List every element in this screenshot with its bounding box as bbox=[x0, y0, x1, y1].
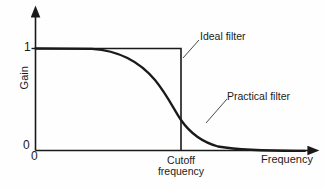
ideal-filter-annotation: Ideal filter bbox=[200, 31, 246, 42]
y-tick-label-one: 1 bbox=[24, 41, 31, 54]
y-axis-label: Gain bbox=[19, 55, 31, 101]
ideal-filter-leader-line bbox=[183, 40, 199, 58]
practical-filter-leader-line bbox=[206, 99, 227, 123]
y-tick-label-zero: 0 bbox=[23, 139, 30, 152]
filter-response-figure: Gain Frequency 1 0 0 Ideal filter Practi… bbox=[0, 0, 325, 189]
cutoff-label-line2: frequency bbox=[148, 166, 214, 177]
x-tick-label-zero: 0 bbox=[31, 150, 38, 163]
practical-filter-annotation: Practical filter bbox=[227, 91, 290, 102]
cutoff-frequency-annotation: Cutoff frequency bbox=[148, 155, 214, 177]
x-axis-label: Frequency bbox=[261, 154, 313, 166]
ideal-filter-curve bbox=[36, 49, 182, 151]
